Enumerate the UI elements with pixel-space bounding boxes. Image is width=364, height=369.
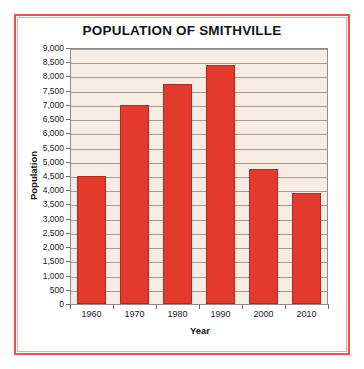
y-tick-mark [66,62,70,63]
y-tick-mark [66,91,70,92]
y-tick-mark [66,76,70,77]
y-tick-label: 6,000 [12,128,64,138]
gridline [70,120,327,121]
y-tick-label: 500 [12,285,64,295]
gridline [70,163,327,164]
gridline [70,205,327,206]
gridline [70,262,327,263]
chart-title: POPULATION OF SMITHVILLE [24,23,340,38]
y-tick-label: 7,500 [12,86,64,96]
y-tick-label: 5,000 [12,157,64,167]
plot-area [70,48,328,304]
gridline [70,149,327,150]
bar-1960 [77,176,105,304]
y-tick-mark [66,176,70,177]
y-tick-mark [66,105,70,106]
gridline [70,49,327,50]
gridline [70,234,327,235]
y-tick-label: 1,000 [12,271,64,281]
y-tick-mark [66,290,70,291]
x-tick-mark [70,305,71,309]
y-tick-label: 8,000 [12,71,64,81]
x-tick-label: 2010 [277,309,337,319]
bar-1980 [163,84,191,304]
gridline [70,248,327,249]
y-tick-label: 4,500 [12,171,64,181]
y-tick-mark [66,247,70,248]
y-tick-mark [66,261,70,262]
y-tick-label: 1,500 [12,256,64,266]
chart-figure: POPULATION OF SMITHVILLE Population Year… [0,0,364,369]
y-tick-label: 6,500 [12,114,64,124]
gridline [70,220,327,221]
y-tick-label: 3,500 [12,199,64,209]
x-axis-title: Year [70,325,330,336]
y-tick-label: 0 [12,299,64,309]
gridline [70,106,327,107]
y-tick-label: 7,000 [12,100,64,110]
gridline [70,291,327,292]
y-tick-mark [66,162,70,163]
y-tick-label: 9,000 [12,43,64,53]
y-tick-label: 4,000 [12,185,64,195]
bar-1990 [206,65,234,304]
y-tick-label: 8,500 [12,57,64,67]
y-tick-mark [66,48,70,49]
gridline [70,63,327,64]
y-tick-label: 3,000 [12,214,64,224]
bar-2010 [292,193,320,304]
y-tick-label: 2,500 [12,228,64,238]
y-tick-label: 5,500 [12,143,64,153]
y-tick-mark [66,133,70,134]
gridline [70,134,327,135]
y-tick-mark [66,190,70,191]
gridline [70,191,327,192]
y-tick-mark [66,148,70,149]
y-tick-mark [66,204,70,205]
gridline [70,277,327,278]
y-tick-mark [66,276,70,277]
y-tick-mark [66,219,70,220]
x-tick-mark [328,305,329,309]
gridline [70,77,327,78]
y-tick-mark [66,119,70,120]
y-axis-spine [70,48,71,305]
bar-2000 [249,169,277,304]
bar-1970 [120,105,148,304]
y-tick-label: 2,000 [12,242,64,252]
y-tick-mark [66,233,70,234]
gridline [70,177,327,178]
gridline [70,92,327,93]
